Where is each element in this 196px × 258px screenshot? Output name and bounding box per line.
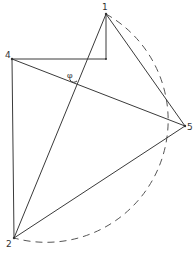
label-point-2: 2: [6, 239, 12, 249]
geometry-diagram: 1 2 4 5 φ: [0, 0, 196, 258]
angle-label-phi: φ: [67, 71, 73, 80]
point-2-marker: [13, 237, 15, 239]
point-5-marker: [184, 125, 186, 127]
edge-4-2: [12, 59, 14, 238]
label-point-4: 4: [5, 50, 11, 60]
edge-1-5: [106, 14, 185, 126]
edge-1-2: [14, 14, 106, 238]
edge-2-5: [14, 126, 185, 238]
label-point-1: 1: [102, 2, 108, 12]
edge-4-5: [12, 59, 185, 126]
dashed-arc: [14, 14, 168, 242]
point-4-marker: [11, 58, 13, 60]
corner-marker: [105, 58, 107, 60]
point-1-marker: [105, 13, 107, 15]
label-point-5: 5: [187, 122, 193, 132]
